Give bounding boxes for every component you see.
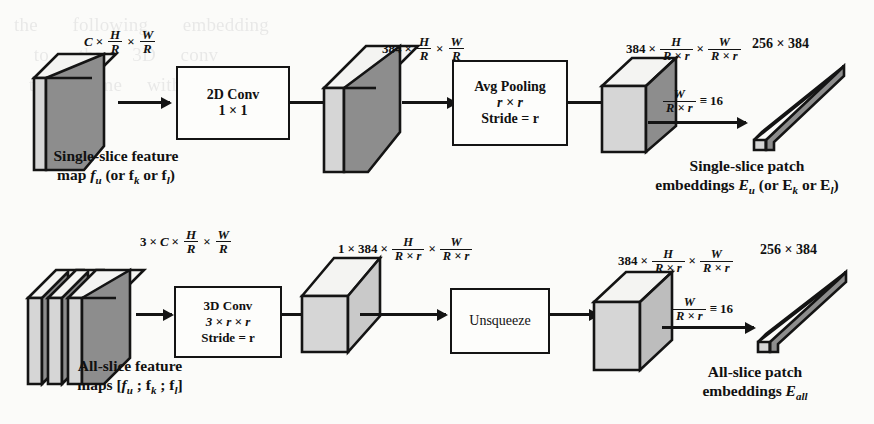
caption-all-slice-patch-embeddings: All-slice patch embeddings Eall bbox=[640, 362, 870, 406]
shape-label-pooled-bottom: 384 × HR × r × WR × r bbox=[618, 248, 734, 275]
arrow-input-to-3dconv bbox=[136, 313, 172, 316]
all-slice-conv-output-shape bbox=[300, 254, 390, 358]
shape-label-conv-out-top: 384 × HR × WR bbox=[382, 35, 466, 63]
ratio-label-bottom: WR × r ≡ 16 bbox=[672, 296, 733, 323]
op-avg-pooling: Avg Pooling r × r Stride = r bbox=[452, 60, 568, 146]
op-3d-conv: 3D Conv 3 × r × r Stride = r bbox=[174, 286, 282, 358]
shape-label-pooled-top: 384 × HR × r × WR × r bbox=[626, 36, 742, 63]
arrow-cube-to-embeddings-bottom bbox=[662, 326, 754, 329]
caption-single-slice-patch-embeddings: Single-slice patch embeddings Eu (or Ek … bbox=[622, 156, 872, 200]
single-slice-patch-embeddings-shape bbox=[740, 62, 852, 154]
arrow-input-to-2dconv bbox=[118, 101, 170, 104]
shape-label-input-top: C × HR × WR bbox=[84, 28, 157, 56]
shape-label-input-bottom: 3 × C × HR × WR bbox=[140, 228, 233, 256]
all-slice-patch-embeddings-shape bbox=[746, 268, 854, 360]
arrow-slab-to-avgpool bbox=[402, 101, 456, 104]
arrow-cube-to-unsqueeze bbox=[360, 313, 446, 316]
op-2d-conv: 2D Conv 1 × 1 bbox=[176, 66, 290, 140]
caption-all-slice-feature-maps: All-slice feature maps [fu ; fk ; fl] bbox=[30, 356, 230, 400]
caption-single-slice-feature-map: Single-slice feature map fu (or fk or fl… bbox=[16, 146, 216, 190]
ratio-label-top: WR × r ≡ 16 bbox=[662, 88, 723, 115]
embed-dims-label-bottom: 256 × 384 bbox=[760, 242, 817, 258]
shape-label-conv-out-bottom: 1 × 384 × HR × r × WR × r bbox=[338, 236, 473, 263]
op-unsqueeze: Unsqueeze bbox=[450, 288, 550, 354]
embed-dims-label-top: 256 × 384 bbox=[752, 36, 809, 52]
arrow-cube-to-embeddings-top bbox=[648, 121, 746, 124]
arrow-unsqueeze-to-cube bbox=[548, 313, 598, 316]
diagram-canvas: C × HR × WR Single-slice feature map fu … bbox=[0, 0, 874, 424]
